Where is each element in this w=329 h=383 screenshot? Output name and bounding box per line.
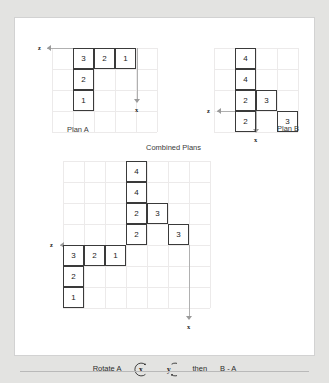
plan-cell: 1 (63, 287, 84, 308)
combined-plans-diagram: Combined Plans z x 44232332121 (44, 143, 294, 358)
combined-z-axis-label: z (50, 241, 53, 248)
plan-cell-value: 2 (243, 96, 247, 104)
grid-line-vertical (298, 48, 299, 132)
plan-a-caption: Plan A (67, 125, 89, 134)
plan-cell-value: 2 (102, 54, 106, 62)
plan-b-diagram: z x 442323 Plan B (201, 31, 321, 141)
page-divider (20, 371, 309, 372)
plan-b-x-axis-label: x (254, 136, 257, 143)
grid-line-vertical (147, 161, 148, 308)
combined-x-axis-label: x (187, 323, 190, 330)
plan-cell-value: 1 (113, 251, 117, 259)
plan-cell-value: 2 (134, 230, 138, 238)
plan-a-x-axis-label: x (135, 106, 138, 113)
plan-cell: 2 (63, 266, 84, 287)
plan-cell-value: 2 (81, 75, 85, 83)
plan-cell: 4 (235, 69, 256, 90)
plan-cell: 3 (168, 224, 189, 245)
plan-cell-value: 4 (243, 75, 247, 83)
plan-cell: 2 (94, 48, 115, 69)
combined-x-axis-arrow-icon (186, 316, 192, 320)
plan-cell-value: 3 (155, 209, 159, 217)
grid-line-horizontal (63, 266, 210, 267)
plan-b-x-axis-line (256, 111, 257, 131)
plan-b-caption: Plan B (277, 124, 299, 133)
grid-line-horizontal (52, 69, 157, 70)
combined-x-axis-line (189, 245, 190, 318)
plan-cell: 2 (73, 69, 94, 90)
plan-cell-value: 3 (81, 54, 85, 62)
grid-line-horizontal (214, 69, 298, 70)
plan-cell: 2 (126, 224, 147, 245)
plan-cell: 1 (115, 48, 136, 69)
plan-a-z-axis-label: z (38, 44, 41, 51)
grid-line-vertical (210, 161, 211, 308)
plan-cell: 2 (235, 90, 256, 111)
plan-cell: 2 (126, 203, 147, 224)
rotate-x-badge[interactable]: x (132, 362, 149, 377)
plan-cell: 1 (105, 245, 126, 266)
grid-line-horizontal (214, 48, 298, 49)
plan-cell-value: 1 (81, 96, 85, 104)
grid-line-vertical (105, 161, 106, 308)
plan-cell-value: 1 (71, 293, 75, 301)
plan-cell: 3 (73, 48, 94, 69)
plan-cell: 4 (126, 182, 147, 203)
grid-line-vertical (84, 161, 85, 308)
plan-cell-value: 2 (243, 117, 247, 125)
rotate-y-badge[interactable]: y (160, 362, 177, 377)
grid-line-horizontal (52, 90, 157, 91)
plan-cell: 3 (147, 203, 168, 224)
rotate-y-label: y (160, 362, 177, 377)
grid-line-horizontal (63, 308, 210, 309)
plan-a-x-axis-arrow-icon (134, 99, 140, 103)
grid-line-vertical (157, 48, 158, 132)
plan-cell: 3 (63, 245, 84, 266)
plan-b-z-axis-label: z (207, 107, 210, 114)
plan-cell: 2 (84, 245, 105, 266)
plan-cell-value: 1 (123, 54, 127, 62)
plan-cell-value: 3 (264, 96, 268, 104)
plan-cell: 4 (126, 161, 147, 182)
plan-a-z-axis-arrow-icon (47, 45, 51, 51)
plan-a-diagram: z x 32121 Plan A (38, 31, 168, 136)
grid-line-horizontal (63, 287, 210, 288)
rotate-x-label: x (132, 362, 149, 377)
plan-cell-value: 2 (71, 272, 75, 280)
instruction-row: Rotate AxythenB - A (15, 359, 314, 379)
worksheet-card: z x 32121 Plan A z x 442323 Plan B Combi… (14, 17, 315, 356)
plan-cell: 1 (73, 90, 94, 111)
grid-line-horizontal (52, 111, 157, 112)
plan-cell: 2 (235, 111, 256, 132)
plan-cell-value: 3 (176, 230, 180, 238)
plan-cell-value: 2 (134, 209, 138, 217)
plan-b-z-axis-arrow-icon (217, 108, 221, 114)
plan-cell: 3 (256, 90, 277, 111)
plan-a-x-axis-line (137, 48, 138, 101)
instruction-text: Rotate AxythenB - A (93, 362, 237, 377)
plan-cell: 4 (235, 48, 256, 69)
plan-cell-value: 4 (134, 188, 138, 196)
plan-cell-value: 4 (134, 167, 138, 175)
combined-plans-title: Combined Plans (146, 143, 201, 152)
plan-cell-value: 2 (92, 251, 96, 259)
plan-cell-value: 4 (243, 54, 247, 62)
plan-cell-value: 3 (71, 251, 75, 259)
